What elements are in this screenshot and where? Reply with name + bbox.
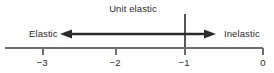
axis-tick-label-minus-3: −3 [27, 57, 57, 68]
axis-tick-label-minus-1: −1 [169, 57, 199, 68]
axis-tick-minus-3 [42, 48, 44, 55]
axis-tick-0 [262, 48, 264, 55]
axis-tick-minus-1 [184, 48, 186, 55]
elastic-region-label: Elastic [29, 28, 58, 39]
elasticity-number-line-figure: Unit elastic Elastic Inelastic −3 −2 −1 … [0, 0, 274, 73]
unit-elastic-label: Unit elastic [0, 3, 270, 14]
axis-tick-label-0: 0 [248, 57, 274, 68]
axis-tick-minus-2 [115, 48, 117, 55]
number-line-axis [5, 47, 263, 49]
double-headed-arrow-icon [60, 26, 216, 42]
inelastic-region-label: Inelastic [224, 28, 260, 39]
axis-tick-label-minus-2: −2 [100, 57, 130, 68]
